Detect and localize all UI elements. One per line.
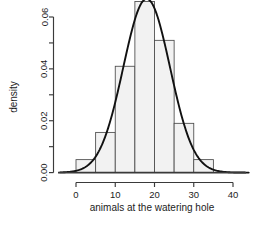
x-axis-ticks: 010203040	[73, 183, 238, 200]
histogram-bar	[194, 160, 214, 173]
x-tick-label: 0	[73, 189, 78, 200]
plot-canvas: 0.000.020.040.06 010203040 animals at th…	[0, 0, 254, 230]
density-histogram-plot: 0.000.020.040.06 010203040 animals at th…	[0, 0, 254, 230]
histogram-bar	[135, 1, 155, 172]
histogram-bar	[115, 66, 135, 172]
y-tick-label: 0.04	[39, 60, 50, 79]
y-axis-ticks: 0.000.020.040.06	[39, 8, 54, 182]
x-tick-label: 40	[228, 189, 239, 200]
x-tick-label: 20	[149, 189, 160, 200]
y-tick-label: 0.02	[39, 111, 50, 130]
histogram-bar	[174, 123, 194, 172]
y-tick-label: 0.06	[39, 8, 50, 27]
x-axis-title: animals at the watering hole	[90, 202, 215, 213]
y-axis-title: density	[8, 81, 19, 113]
x-tick-label: 10	[110, 189, 121, 200]
y-tick-label: 0.00	[39, 163, 50, 182]
histogram-bar	[155, 40, 175, 172]
x-tick-label: 30	[188, 189, 199, 200]
